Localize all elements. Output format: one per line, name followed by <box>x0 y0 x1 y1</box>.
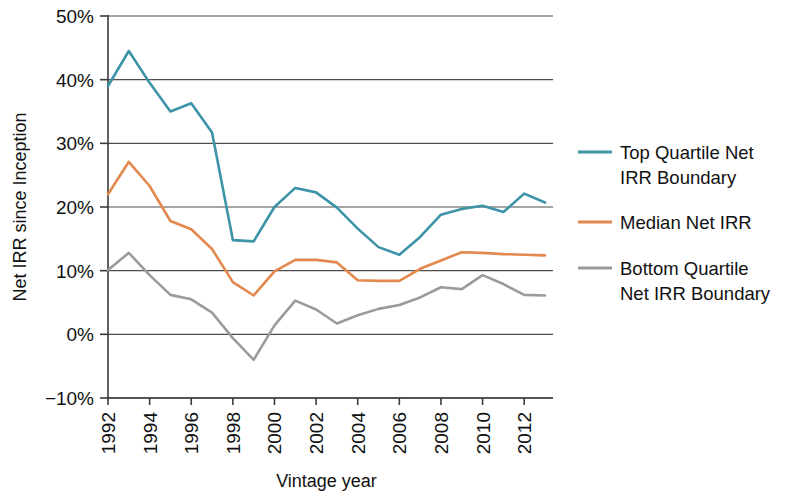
x-tick-label: 2004 <box>348 412 369 455</box>
x-tick-label: 1994 <box>140 412 161 455</box>
y-tick-label: 10% <box>56 261 94 282</box>
y-axis-title: Net IRR since Inception <box>10 112 30 301</box>
x-tick-label: 1996 <box>181 412 202 454</box>
x-tick-label: 2010 <box>473 412 494 454</box>
x-tick-label: 2002 <box>306 412 327 454</box>
x-tick-label: 1992 <box>98 412 119 454</box>
line-chart: −10%0%10%20%30%40%50% 199219941996199820… <box>0 0 795 497</box>
legend-label: Top Quartile Net <box>620 142 754 163</box>
x-tick-label: 2008 <box>431 412 452 454</box>
x-tick-label: 2006 <box>389 412 410 454</box>
x-tick-label: 2012 <box>514 412 535 454</box>
y-tick-label: −10% <box>45 388 94 409</box>
legend-label: Median Net IRR <box>620 212 752 233</box>
legend-label: Net IRR Boundary <box>620 283 771 304</box>
legend-label: IRR Boundary <box>620 167 737 188</box>
y-tick-label: 50% <box>56 6 94 27</box>
y-tick-label: 40% <box>56 70 94 91</box>
y-tick-label: 0% <box>67 324 95 345</box>
x-axis-title: Vintage year <box>276 471 377 491</box>
x-tick-label: 2000 <box>264 412 285 454</box>
legend-label: Bottom Quartile <box>620 258 749 279</box>
x-tick-label: 1998 <box>223 412 244 454</box>
y-tick-label: 30% <box>56 133 94 154</box>
chart-figure: −10%0%10%20%30%40%50% 199219941996199820… <box>0 0 795 497</box>
y-tick-label: 20% <box>56 197 94 218</box>
